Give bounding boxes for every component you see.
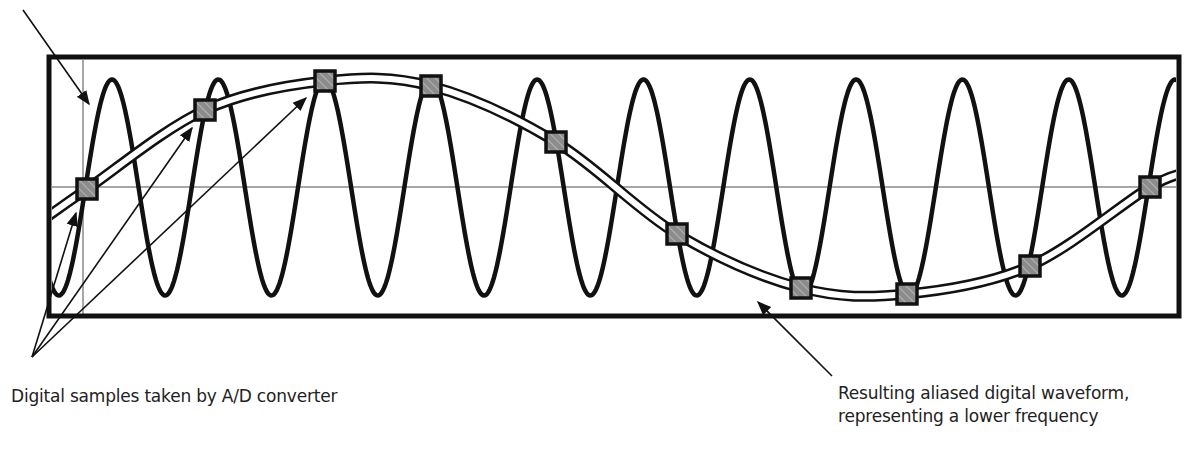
sample-point-5 [546,132,566,152]
sample-point-4 [421,76,441,96]
aliased-caption-line-1: Resulting aliased digital waveform, [838,382,1129,405]
sample-point-8 [897,284,917,304]
sample-point-7 [791,278,811,298]
sample-point-9 [1020,256,1040,276]
callout-arrows [23,10,832,376]
sample-point-6 [667,224,687,244]
sample-point-2 [195,100,215,120]
aliased-waveform-caption: Resulting aliased digital waveform, repr… [838,382,1129,428]
samples-caption: Digital samples taken by A/D converter [11,385,337,408]
arrow-to-aliased-waveform [758,302,832,376]
arrow-to-sample-2 [32,128,192,357]
sample-point-1 [77,179,97,199]
sample-point-10 [1140,177,1160,197]
aliased-caption-line-2: representing a lower frequency [838,405,1129,428]
sample-point-3 [315,71,335,91]
